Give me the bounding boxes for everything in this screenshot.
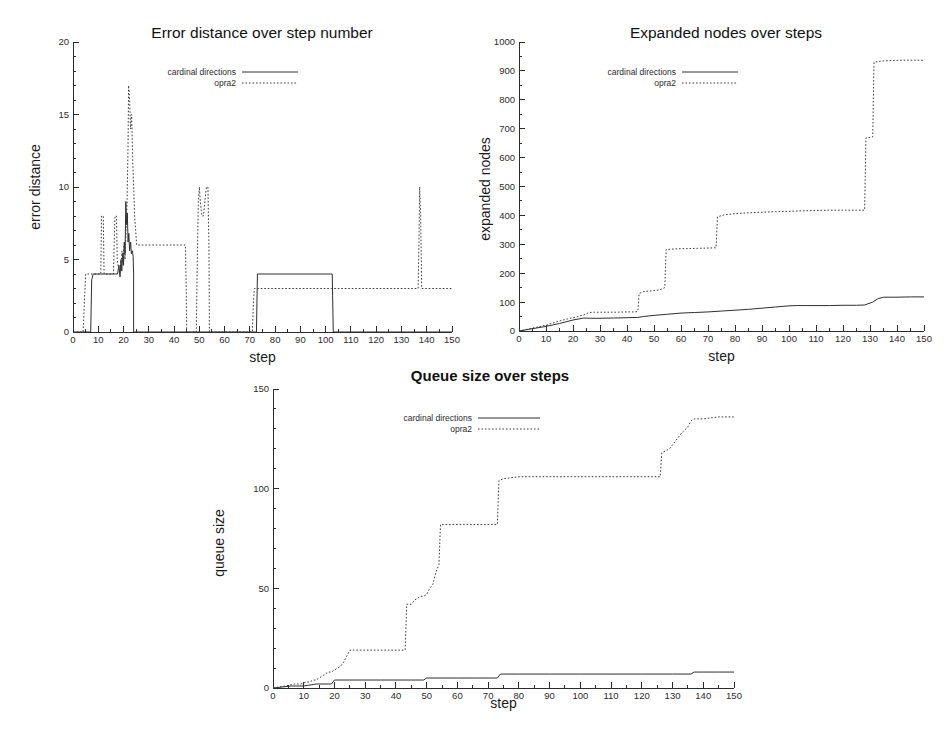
series-group	[73, 86, 452, 333]
x-axis-title: step	[249, 349, 276, 365]
legend-label: cardinal directions	[403, 413, 472, 423]
x-tick-label: 90	[295, 334, 306, 345]
x-tick-label: 60	[676, 333, 687, 344]
series-group	[519, 60, 924, 331]
y-axis-title: expanded nodes	[477, 137, 493, 241]
x-tick-label: 70	[703, 333, 714, 344]
x-tick-label: 20	[568, 333, 579, 344]
y-tick-label: 20	[58, 36, 69, 47]
x-tick-label: 70	[245, 334, 256, 345]
x-axis-major-ticks: 0102030405060708090100110120130140150	[516, 325, 932, 344]
x-tick-label: 150	[916, 333, 932, 344]
x-tick-label: 0	[516, 333, 521, 344]
series-line-cardinal-directions	[519, 297, 924, 331]
x-tick-label: 30	[360, 690, 371, 701]
y-tick-label: 1000	[494, 36, 515, 47]
y-axis-major-ticks: 05101520	[58, 36, 79, 337]
y-tick-label: 400	[499, 210, 515, 221]
x-tick-label: 120	[835, 333, 851, 344]
x-tick-label: 40	[622, 333, 633, 344]
chart-error-distance-over-step-number: Error distance over step number051015200…	[22, 24, 472, 364]
chart-expanded-nodes-over-steps: Expanded nodes over steps010020030040050…	[476, 24, 942, 364]
y-tick-label: 800	[499, 94, 515, 105]
x-tick-label: 140	[419, 334, 435, 345]
x-tick-label: 10	[298, 690, 309, 701]
plot-expanded-nodes: Expanded nodes over steps010020030040050…	[476, 24, 942, 364]
legend-label: opra2	[654, 78, 676, 88]
series-line-opra2	[519, 60, 924, 331]
x-tick-label: 50	[421, 690, 432, 701]
x-tick-label: 140	[889, 333, 905, 344]
x-tick-label: 50	[194, 334, 205, 345]
x-axis-title: step	[708, 348, 735, 364]
x-tick-label: 120	[634, 690, 650, 701]
series-group	[273, 417, 734, 688]
y-tick-label: 0	[510, 325, 515, 336]
y-axis-major-ticks: 050100150	[253, 383, 279, 693]
x-tick-label: 10	[541, 333, 552, 344]
chart-title: Error distance over step number	[151, 24, 372, 41]
x-tick-label: 100	[781, 333, 797, 344]
x-tick-label: 100	[318, 334, 334, 345]
x-tick-label: 80	[730, 333, 741, 344]
y-tick-label: 10	[58, 181, 69, 192]
plot-error-distance: Error distance over step number051015200…	[22, 24, 472, 364]
x-tick-label: 40	[391, 690, 402, 701]
x-tick-label: 140	[695, 690, 711, 701]
x-tick-label: 110	[343, 334, 358, 345]
x-tick-label: 60	[219, 334, 230, 345]
y-tick-label: 0	[64, 326, 69, 337]
x-tick-label: 80	[270, 334, 281, 345]
y-tick-label: 300	[499, 239, 515, 250]
axis-lines	[519, 42, 924, 331]
y-tick-label: 0	[264, 682, 269, 693]
chart-title: Queue size over steps	[411, 367, 569, 384]
y-axis-major-ticks: 01002003004005006007008009001000	[494, 36, 525, 336]
x-tick-label: 130	[394, 334, 410, 345]
x-axis-major-ticks: 0102030405060708090100110120130140150	[70, 326, 460, 345]
chart-title: Expanded nodes over steps	[630, 24, 822, 41]
legend: cardinal directionsopra2	[403, 413, 540, 434]
x-tick-label: 130	[665, 690, 681, 701]
y-tick-label: 15	[58, 109, 69, 120]
y-tick-label: 500	[499, 181, 515, 192]
x-axis-title: step	[490, 695, 517, 711]
series-line-opra2	[273, 417, 734, 688]
x-tick-label: 60	[452, 690, 463, 701]
y-tick-label: 100	[253, 483, 269, 494]
x-tick-label: 90	[757, 333, 768, 344]
x-tick-label: 150	[726, 690, 742, 701]
y-tick-label: 200	[499, 268, 515, 279]
y-axis-title: queue size	[211, 509, 227, 577]
legend-label: opra2	[214, 78, 236, 88]
x-tick-label: 110	[808, 333, 823, 344]
legend: cardinal directionsopra2	[607, 67, 738, 88]
x-tick-label: 100	[572, 690, 588, 701]
y-tick-label: 5	[64, 254, 69, 265]
x-tick-label: 150	[444, 334, 460, 345]
x-tick-label: 90	[544, 690, 555, 701]
x-tick-label: 0	[70, 334, 75, 345]
x-tick-label: 40	[169, 334, 180, 345]
plot-queue-size: Queue size over steps0501001500102030405…	[200, 368, 760, 708]
legend-label: opra2	[450, 424, 472, 434]
x-tick-label: 10	[93, 334, 104, 345]
x-tick-label: 30	[144, 334, 155, 345]
legend: cardinal directionsopra2	[167, 67, 298, 88]
y-tick-label: 600	[499, 152, 515, 163]
x-tick-label: 20	[118, 334, 129, 345]
x-tick-label: 110	[603, 690, 618, 701]
y-axis-title: error distance	[27, 144, 43, 230]
y-tick-label: 100	[499, 297, 515, 308]
chart-queue-size-over-steps: Queue size over steps0501001500102030405…	[200, 368, 760, 708]
y-tick-label: 150	[253, 383, 269, 394]
x-tick-label: 30	[595, 333, 606, 344]
series-line-cardinal-directions	[73, 202, 452, 333]
x-tick-label: 120	[368, 334, 384, 345]
y-tick-label: 50	[258, 583, 269, 594]
y-tick-label: 900	[499, 65, 515, 76]
x-tick-label: 50	[649, 333, 660, 344]
x-tick-label: 20	[329, 690, 340, 701]
axis-lines	[273, 389, 734, 688]
legend-label: cardinal directions	[607, 67, 676, 77]
